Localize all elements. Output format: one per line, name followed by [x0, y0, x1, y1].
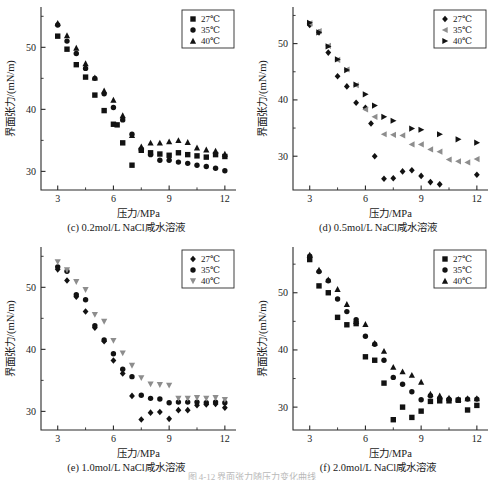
- scatter-plot-d: 36912304050压力/MPa界面张力/(mN/m)27℃35℃40℃: [252, 0, 504, 240]
- marker-square: [372, 358, 377, 363]
- legend-label: 27℃: [453, 14, 472, 24]
- marker-triangle-right: [372, 102, 378, 108]
- marker-triangle-left: [418, 141, 424, 147]
- marker-diamond: [83, 308, 89, 315]
- legend-label: 35℃: [453, 25, 472, 35]
- marker-diamond: [372, 153, 378, 160]
- marker-triangle-up: [175, 137, 181, 143]
- marker-triangle-up: [427, 391, 433, 397]
- marker-diamond: [64, 277, 70, 284]
- marker-square: [92, 92, 97, 97]
- marker-triangle-left: [399, 132, 405, 138]
- scatter-plot-e: 36912304050压力/MPa界面张力/(mN/m)27℃35℃40℃: [0, 240, 252, 480]
- marker-triangle-left: [390, 132, 396, 138]
- marker-circle: [335, 296, 340, 301]
- marker-circle: [442, 267, 447, 272]
- marker-square: [465, 407, 470, 412]
- x-tick-label: 3: [307, 193, 312, 204]
- y-axis-title: 界面张力/(mN/m): [256, 300, 269, 377]
- marker-triangle-right: [381, 114, 387, 120]
- marker-square: [190, 16, 195, 21]
- marker-diamond: [390, 175, 396, 182]
- marker-square: [326, 290, 331, 295]
- marker-triangle-down: [101, 319, 107, 325]
- marker-diamond: [409, 167, 415, 174]
- marker-circle: [120, 367, 125, 372]
- marker-square: [409, 415, 414, 420]
- marker-diamond: [418, 173, 424, 180]
- marker-triangle-left: [409, 141, 415, 147]
- marker-triangle-up: [418, 379, 424, 385]
- legend-label: 40℃: [201, 276, 220, 286]
- marker-triangle-up: [120, 112, 126, 118]
- marker-triangle-up: [399, 368, 405, 374]
- marker-triangle-right: [363, 91, 369, 97]
- marker-square: [381, 380, 386, 385]
- marker-triangle-down: [92, 312, 98, 318]
- marker-triangle-right: [409, 126, 415, 132]
- marker-triangle-up: [110, 97, 116, 103]
- marker-circle: [83, 297, 88, 302]
- y-tick-label: 40: [278, 344, 288, 355]
- figure-caption: 图 4-12 界面张力随压力变化曲线: [0, 470, 504, 480]
- legend-label: 35℃: [201, 25, 220, 35]
- marker-circle: [190, 27, 195, 32]
- x-tick-label: 6: [363, 193, 368, 204]
- y-axis-title: 界面张力/(mN/m): [4, 60, 17, 137]
- marker-diamond: [400, 168, 406, 175]
- figure-grid: 36912304050压力/MPa界面张力/(mN/m)27℃35℃40℃ (c…: [0, 0, 504, 480]
- marker-triangle-up: [166, 138, 172, 144]
- marker-triangle-up: [390, 364, 396, 370]
- marker-square: [166, 153, 171, 158]
- marker-triangle-left: [446, 156, 452, 162]
- marker-circle: [185, 161, 190, 166]
- marker-triangle-up: [381, 348, 387, 354]
- marker-triangle-down: [147, 381, 153, 387]
- marker-triangle-down: [138, 375, 144, 381]
- marker-square: [335, 315, 340, 320]
- marker-diamond: [138, 416, 144, 423]
- panel-caption-d: (d) 0.5mol/L NaCl咸水溶液: [252, 219, 504, 234]
- marker-triangle-up: [101, 88, 107, 94]
- marker-square: [474, 403, 479, 408]
- marker-triangle-right: [391, 118, 397, 124]
- y-tick-label: 50: [26, 42, 36, 53]
- series-27℃: [55, 266, 228, 423]
- marker-triangle-up: [64, 32, 70, 38]
- marker-circle: [381, 358, 386, 363]
- y-tick-label: 30: [278, 151, 288, 162]
- marker-square: [344, 322, 349, 327]
- marker-circle: [400, 382, 405, 387]
- marker-square: [55, 33, 60, 38]
- marker-circle: [418, 397, 423, 402]
- marker-triangle-down: [203, 396, 209, 402]
- panel-caption-c: (c) 0.2mol/L NaCl咸水溶液: [0, 219, 252, 234]
- legend-label: 35℃: [201, 265, 220, 275]
- marker-triangle-up: [334, 286, 340, 292]
- marker-triangle-left: [372, 114, 378, 120]
- x-tick-label: 3: [55, 433, 60, 444]
- marker-circle: [166, 158, 171, 163]
- marker-triangle-right: [456, 136, 462, 142]
- marker-circle: [194, 162, 199, 167]
- marker-square: [129, 162, 134, 167]
- marker-triangle-up: [409, 372, 415, 378]
- marker-circle: [111, 351, 116, 356]
- marker-triangle-down: [110, 338, 116, 344]
- legend-label: 40℃: [453, 36, 472, 46]
- marker-diamond: [474, 171, 480, 178]
- marker-diamond: [335, 73, 341, 80]
- marker-circle: [363, 334, 368, 339]
- x-tick-label: 3: [55, 193, 60, 204]
- marker-square: [185, 152, 190, 157]
- marker-diamond: [111, 357, 117, 364]
- marker-square: [391, 417, 396, 422]
- marker-diamond: [176, 407, 182, 414]
- marker-circle: [111, 105, 116, 110]
- marker-circle: [157, 158, 162, 163]
- x-tick-label: 12: [220, 193, 230, 204]
- marker-diamond: [157, 409, 163, 416]
- marker-circle: [64, 38, 69, 43]
- x-axis-title: 压力/MPa: [369, 447, 412, 459]
- marker-diamond: [368, 120, 374, 127]
